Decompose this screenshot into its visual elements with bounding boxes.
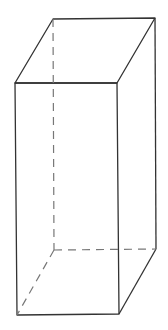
hidden-bottom-back-edge	[54, 249, 156, 250]
bottom-right-edge	[119, 249, 156, 314]
top-face	[15, 18, 155, 83]
rectangular-prism-diagram	[0, 0, 168, 330]
front-face	[15, 83, 119, 315]
hidden-vertical-edge	[53, 19, 54, 250]
right-back-edge	[155, 18, 156, 249]
visible-edges	[15, 18, 156, 315]
hidden-edges	[17, 19, 156, 315]
hidden-bottom-left-edge	[17, 250, 54, 315]
